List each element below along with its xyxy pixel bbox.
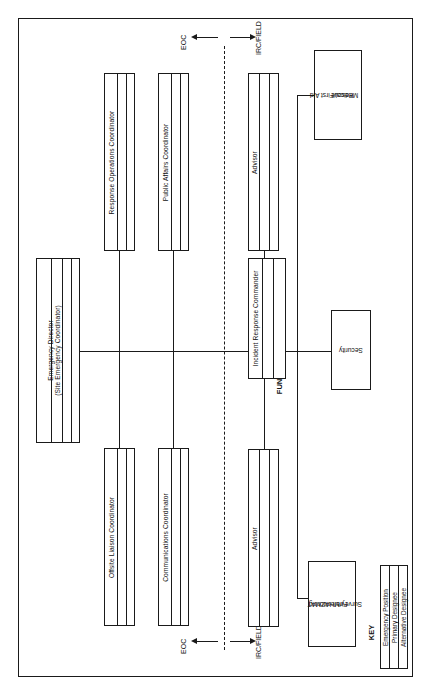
response-ops-strip-2 — [118, 74, 127, 250]
public-affairs-strip-2 — [172, 74, 181, 250]
key-row-alternative-designee: Alternative Designee — [399, 566, 407, 668]
team-box-security[interactable]: Security — [331, 310, 371, 390]
position-box-incident-response-commander[interactable]: Incident Response Commander — [248, 258, 286, 379]
position-box-advisor-top[interactable]: Advisor — [248, 73, 279, 251]
key-row-primary-designee: Primary Designee — [390, 566, 399, 668]
connector-offsite-liaison — [119, 351, 120, 448]
communications-strip-2 — [172, 449, 181, 625]
key-row-alternative-designee-wrap: Alternative Designee — [399, 566, 407, 668]
offsite-liaison-strip-2 — [118, 449, 127, 625]
connector-public-affairs — [173, 251, 174, 352]
zone-label-eoc-bottom-text: EOC — [180, 628, 188, 654]
teams-branch-fire-hazmat — [297, 598, 308, 599]
key-title-text: KEY — [368, 624, 376, 640]
teams-bracket-trunk — [297, 95, 298, 598]
zone-label-eoc-top-text: EOC — [180, 24, 188, 50]
eoc-arrow-line-top — [196, 37, 218, 38]
response-ops-strip-1 — [105, 74, 118, 250]
irc-strip-1 — [249, 259, 263, 378]
connector-response-operations — [119, 251, 120, 352]
advisor-bottom-strip-1 — [249, 450, 260, 626]
figure-canvas: EOC IRC/FIELD EOC IRC/FIELD FUNCTION — [0, 0, 431, 695]
zone-label-field-bottom-text: IRC/FIELD — [255, 629, 263, 659]
key-title: KEY — [364, 620, 380, 650]
team-box-medical-first-aid-rescue[interactable]: Medical/First Aid Rescue — [314, 50, 362, 140]
team-fire-hazmat-label-line2: Survey/Monitoring — [310, 600, 363, 608]
caption-function-text: FUNCTION — [276, 378, 285, 394]
irc-strip-2 — [263, 259, 274, 378]
connector-advisor-bottom — [264, 379, 265, 449]
teams-branch-security — [297, 351, 331, 352]
director-strip-divider-1 — [37, 259, 52, 442]
zone-label-field-top: IRC/FIELD — [244, 20, 274, 62]
public-affairs-strip-1 — [159, 74, 172, 250]
position-box-offsite-liaison-coordinator[interactable]: Offsite Liaison Coordinator — [104, 448, 135, 626]
advisor-bottom-strip-2 — [260, 450, 270, 626]
team-box-fire-hazmat[interactable]: Fire/HAZMAT Survey/Monitoring — [308, 561, 356, 647]
eoc-arrow-head-top — [191, 34, 197, 40]
position-box-response-operations-coordinator[interactable]: Response Operations Coordinator — [104, 73, 135, 251]
eoc-arrow-head-bottom — [191, 638, 197, 644]
advisor-top-strip-1 — [249, 74, 260, 250]
position-box-public-affairs-coordinator[interactable]: Public Affairs Coordinator — [158, 73, 189, 251]
key-row-primary-designee-wrap: Primary Designee — [390, 566, 398, 668]
key-row-alternative-designee-text: Alternative Designee — [400, 588, 407, 647]
key-legend-box: Emergency Position Primary Designee Alte… — [380, 565, 408, 669]
position-box-advisor-bottom[interactable]: Advisor — [248, 449, 279, 627]
zone-label-field-bottom: IRC/FIELD — [244, 624, 274, 666]
offsite-liaison-strip-1 — [105, 449, 118, 625]
advisor-top-strip-2 — [260, 74, 270, 250]
position-box-communications-coordinator[interactable]: Communications Coordinator — [158, 448, 189, 626]
director-strip-divider-3 — [63, 259, 72, 442]
key-row-emergency-position-wrap: Emergency Position — [381, 566, 389, 668]
zone-label-field-top-text: IRC/FIELD — [255, 25, 263, 55]
team-medical-label-line2: Rescue — [318, 91, 366, 99]
eoc-arrow-line-bottom — [196, 641, 218, 642]
connector-communications — [173, 351, 174, 448]
team-medical-label-wrap: Medical/First Aid Rescue — [315, 51, 361, 139]
team-security-label-wrap: Security — [332, 311, 370, 389]
team-security-label-line1: Security — [339, 346, 363, 354]
key-row-emergency-position: Emergency Position — [381, 566, 390, 668]
communications-strip-1 — [159, 449, 172, 625]
eoc-field-divider — [224, 46, 225, 650]
key-row-primary-designee-text: Primary Designee — [391, 592, 398, 643]
key-row-emergency-position-text: Emergency Position — [382, 589, 389, 646]
director-strip-divider-2 — [52, 259, 63, 442]
position-box-emergency-director[interactable]: Emergency Director (Site Emergency Coord… — [36, 258, 80, 443]
team-fire-hazmat-label-wrap: Fire/HAZMAT Survey/Monitoring — [309, 562, 355, 646]
